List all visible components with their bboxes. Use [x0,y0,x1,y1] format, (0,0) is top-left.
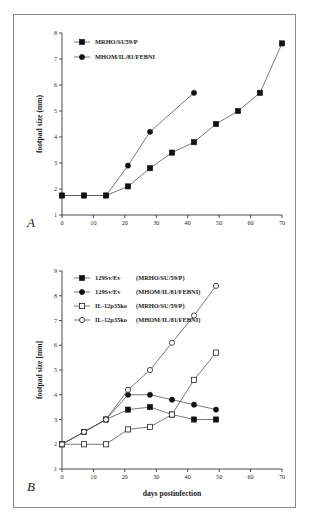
panel-a-plot: 12345678010203040506070footpad size (mm)… [14,15,295,257]
y-axis-title: footpad size (mm) [35,94,44,153]
data-point [213,350,218,355]
legend-label: IL-12p35ko [95,316,127,323]
data-point [213,283,218,288]
series-group [59,41,284,198]
series-line [62,407,216,444]
legend-strain-label: (MRHO/SU/59/P) [136,302,185,310]
data-point [147,367,152,372]
y-axis-tick-label: 1 [54,465,57,472]
y-axis-tick-label: 8 [54,292,57,299]
x-axis-tick-label: 40 [185,219,191,226]
y-axis-tick-label: 4 [54,133,57,140]
y-axis-tick-label: 6 [54,81,57,88]
data-point [147,129,152,134]
x-axis-tick-label: 10 [90,219,96,226]
legend-marker [79,289,84,294]
legend-strain-label: (MHOM/IL/81/FEBNI) [136,316,200,324]
y-axis-tick-label: 7 [54,55,57,62]
y-axis-tick-label: 6 [54,341,57,348]
legend-label: MHOM/IL/81/FEBNI [95,53,156,60]
series-line [62,43,282,195]
data-point [103,417,108,422]
x-axis-tick-label: 0 [60,219,63,226]
y-axis-tick-label: 3 [54,416,57,423]
y-axis-tick-label: 7 [54,317,57,324]
series-group [59,90,196,198]
data-point [235,108,240,113]
data-point [81,442,86,447]
data-point [103,193,108,198]
x-axis-tick-label: 70 [279,219,285,226]
x-axis-tick-label: 70 [279,473,285,480]
figure-frame: 12345678010203040506070footpad size (mm)… [13,14,296,508]
data-point [169,340,174,345]
data-point [191,402,196,407]
legend-marker [79,317,84,322]
series-line [62,93,194,196]
legend-strain-label: (MRHO/SU/59/P) [136,274,185,282]
x-axis-tick-label: 60 [247,219,253,226]
panel-b: 123456789010203040506070footpad size [mm… [14,257,295,507]
legend-label: MRHO/SU59/P [95,38,138,45]
panel-a: 12345678010203040506070footpad size (mm)… [14,15,295,257]
data-point [147,405,152,410]
data-point [213,407,218,412]
legend-marker [79,39,84,44]
data-point [213,417,218,422]
data-point [81,193,86,198]
data-point [169,397,174,402]
legend-marker [79,275,84,280]
panel-a-letter: A [27,215,35,231]
x-axis-tick-label: 20 [122,473,128,480]
data-point [81,429,86,434]
legend-label: 129Sv/Ev [95,288,121,295]
data-point [257,90,262,95]
x-axis-tick-label: 40 [185,473,191,480]
data-point [147,424,152,429]
series-group [59,405,218,447]
legend-marker [79,303,84,308]
x-axis-tick-label: 30 [153,473,159,480]
legend-marker [79,54,84,59]
y-axis-tick-label: 9 [54,267,57,274]
data-point [169,412,174,417]
data-point [125,163,130,168]
data-point [59,442,64,447]
y-axis-tick-label: 4 [54,391,57,398]
y-axis-tick-label: 5 [54,107,57,114]
x-axis-title: days postinfection [143,489,202,498]
data-point [147,392,152,397]
data-point [191,377,196,382]
data-point [191,140,196,145]
data-point [103,442,108,447]
legend-label: 129Sv/Ev [95,274,121,281]
x-axis-tick-label: 0 [60,473,63,480]
y-axis-tick-label: 5 [54,366,57,373]
y-axis-tick-label: 1 [54,211,57,218]
data-point [125,184,130,189]
y-axis-tick-label: 8 [54,29,57,36]
x-axis-tick-label: 50 [216,219,222,226]
legend: MRHO/SU59/PMHOM/IL/81/FEBNI [74,38,156,60]
legend-strain-label: (MHOM/IL/81/FEBNI) [136,288,200,296]
legend: 129Sv/Ev(MRHO/SU/59/P)129Sv/Ev(MHOM/IL/8… [74,274,200,324]
y-axis-tick-label: 3 [54,159,57,166]
panel-b-letter: B [27,479,35,495]
data-point [147,166,152,171]
data-point [59,193,64,198]
x-axis-tick-label: 50 [216,473,222,480]
data-point [125,387,130,392]
data-point [169,150,174,155]
data-point [191,90,196,95]
y-axis-title: footpad size [mm] [35,341,44,399]
data-point [191,417,196,422]
y-axis-tick-label: 2 [54,185,57,192]
x-axis-tick-label: 10 [90,473,96,480]
x-axis-tick-label: 20 [122,219,128,226]
data-point [279,41,284,46]
data-point [213,121,218,126]
data-point [125,407,130,412]
x-axis-tick-label: 30 [153,219,159,226]
panel-b-plot: 123456789010203040506070footpad size [mm… [14,257,295,507]
data-point [125,392,130,397]
